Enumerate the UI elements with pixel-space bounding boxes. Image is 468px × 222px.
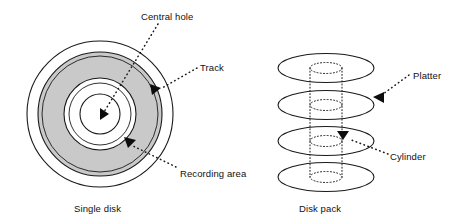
diagram-canvas: Central hole Track Recording area Single…: [0, 0, 468, 222]
platter-arrowhead: [373, 92, 384, 103]
caption-single-disk: Single disk: [74, 203, 121, 214]
disk-pack-group: Platter Cylinder Disk pack: [278, 54, 441, 215]
caption-disk-pack: Disk pack: [299, 203, 341, 214]
platter-ellipse-1: [278, 54, 374, 83]
cylinder-leader-line: [349, 139, 388, 154]
label-central-hole: Central hole: [141, 11, 193, 22]
platter-ellipse-2: [278, 91, 374, 120]
cylinder-ring-1: [310, 63, 342, 74]
cylinder-arrowhead: [337, 131, 349, 140]
cylinder-ring-3: [310, 136, 342, 147]
label-cylinder: Cylinder: [390, 151, 426, 162]
label-platter: Platter: [413, 70, 441, 81]
label-recording-area: Recording area: [180, 168, 247, 179]
cylinder-ring-4: [310, 172, 342, 183]
cylinder-ring-2: [310, 100, 342, 111]
disk-diagram-svg: Central hole Track Recording area Single…: [0, 0, 468, 222]
platter-ellipse-3: [278, 127, 374, 156]
label-track: Track: [200, 62, 224, 73]
single-disk-group: Central hole Track Recording area Single…: [27, 11, 247, 214]
platter-ellipse-4: [278, 163, 374, 192]
track-leader-line: [162, 68, 197, 88]
